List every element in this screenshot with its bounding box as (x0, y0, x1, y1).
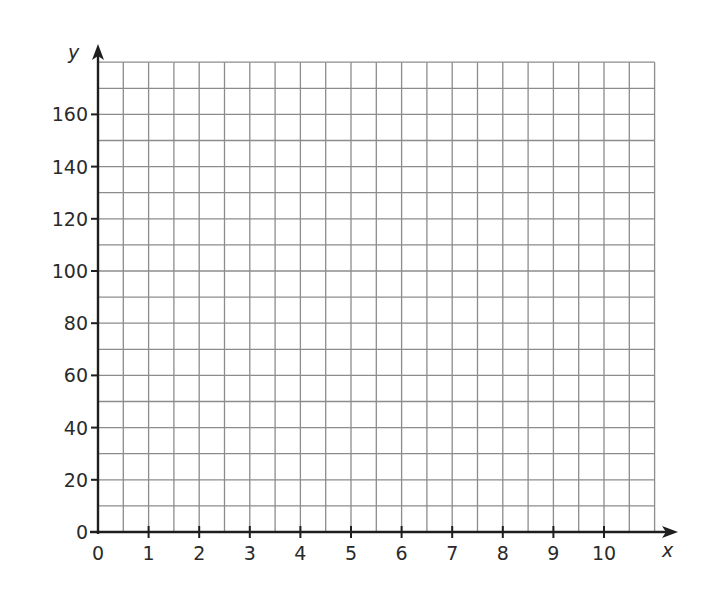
y-tick-label: 120 (52, 208, 88, 230)
y-tick-label: 20 (64, 469, 88, 491)
y-tick-label: 140 (52, 156, 88, 178)
tick-marks (91, 114, 604, 538)
x-tick-label: 1 (143, 542, 155, 564)
x-tick-label: 0 (92, 542, 104, 564)
y-tick-label: 40 (64, 417, 88, 439)
x-tick-label: 3 (244, 542, 256, 564)
y-axis-label: y (67, 41, 80, 63)
y-tick-label: 0 (76, 521, 88, 543)
axes (90, 44, 678, 538)
x-tick-label: 10 (592, 542, 616, 564)
x-axis-label: x (661, 539, 674, 561)
x-tick-label: 8 (497, 542, 509, 564)
y-tick-label: 100 (52, 260, 88, 282)
x-tick-label: 6 (396, 542, 408, 564)
x-tick-label: 2 (193, 542, 205, 564)
x-tick-label: 5 (345, 542, 357, 564)
grid-lines (98, 62, 655, 532)
x-tick-label: 4 (294, 542, 306, 564)
y-tick-label: 160 (52, 103, 88, 125)
x-tick-label: 9 (547, 542, 559, 564)
x-tick-label: 7 (446, 542, 458, 564)
y-tick-label: 60 (64, 364, 88, 386)
x-tick-labels: 012345678910 (92, 542, 616, 564)
y-tick-label: 80 (64, 312, 88, 334)
coordinate-grid-chart: 012345678910 020406080100120140160 x y (0, 0, 715, 606)
y-tick-labels: 020406080100120140160 (52, 103, 88, 543)
